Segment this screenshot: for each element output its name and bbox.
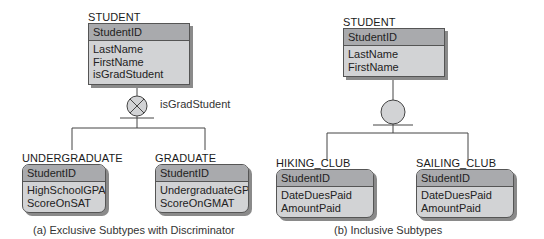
- entity-name-hiking-club: HIKING_CLUB: [276, 157, 350, 169]
- entity-key: StudentID: [417, 170, 513, 187]
- attribute: HighSchoolGPA: [27, 184, 101, 197]
- entity-key: StudentID: [344, 29, 444, 46]
- attribute: DateDuesPaid: [421, 189, 509, 202]
- entity-key: StudentID: [23, 165, 105, 182]
- entity-key: StudentID: [89, 24, 189, 41]
- caption-b: (b) Inclusive Subtypes: [334, 224, 442, 236]
- inclusive-subtype-icon: [381, 100, 405, 124]
- entity-graduate: StudentID UndergraduateGPA ScoreOnGMAT: [155, 164, 249, 213]
- attribute: FirstName: [348, 61, 440, 74]
- entity-attributes: LastName FirstName: [344, 46, 444, 76]
- entity-key: StudentID: [156, 165, 248, 182]
- entity-attributes: HighSchoolGPA ScoreOnSAT: [23, 182, 105, 212]
- attribute: LastName: [93, 43, 185, 56]
- attribute: isGradStudent: [93, 68, 185, 81]
- attribute: AmountPaid: [421, 202, 509, 215]
- entity-undergraduate: StudentID HighSchoolGPA ScoreOnSAT: [22, 164, 106, 213]
- entity-key: StudentID: [277, 170, 373, 187]
- entity-attributes: DateDuesPaid AmountPaid: [417, 187, 513, 217]
- entity-name-undergraduate: UNDERGRADUATE: [22, 152, 123, 164]
- attribute: AmountPaid: [281, 202, 369, 215]
- entity-name-student-b: STUDENT: [343, 16, 396, 28]
- attribute: LastName: [348, 48, 440, 61]
- attribute: ScoreOnGMAT: [160, 197, 244, 210]
- attribute: DateDuesPaid: [281, 189, 369, 202]
- entity-name-sailing-club: SAILING_CLUB: [416, 157, 496, 169]
- entity-name-graduate: GRADUATE: [155, 152, 216, 164]
- entity-attributes: LastName FirstName isGradStudent: [89, 41, 189, 84]
- entity-attributes: UndergraduateGPA ScoreOnGMAT: [156, 182, 248, 212]
- caption-a: (a) Exclusive Subtypes with Discriminato…: [33, 224, 235, 236]
- entity-sailing-club: StudentID DateDuesPaid AmountPaid: [416, 169, 514, 218]
- entity-student-a: StudentID LastName FirstName isGradStude…: [88, 23, 190, 85]
- entity-student-b: StudentID LastName FirstName: [343, 28, 445, 77]
- entity-hiking-club: StudentID DateDuesPaid AmountPaid: [276, 169, 374, 218]
- entity-name-student-a: STUDENT: [88, 11, 141, 23]
- discriminator-label: isGradStudent: [160, 98, 230, 110]
- attribute: ScoreOnSAT: [27, 197, 101, 210]
- attribute: UndergraduateGPA: [160, 184, 244, 197]
- attribute: FirstName: [93, 56, 185, 69]
- entity-attributes: DateDuesPaid AmountPaid: [277, 187, 373, 217]
